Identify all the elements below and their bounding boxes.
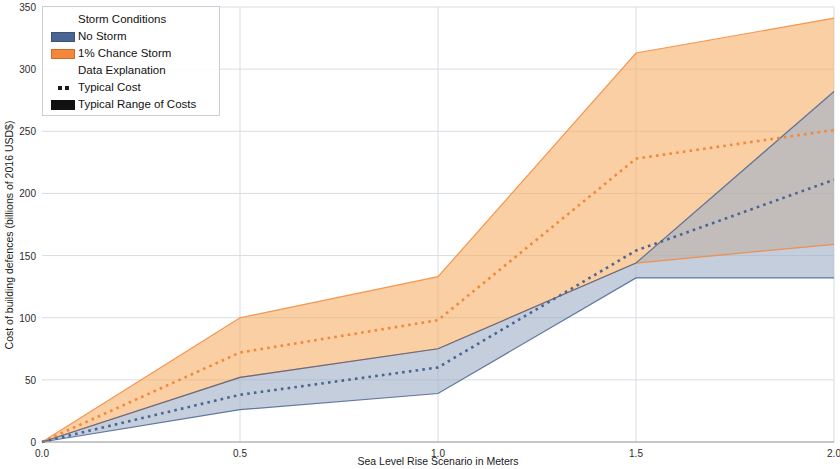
- y-tick-label: 100: [19, 313, 36, 324]
- y-tick-label: 150: [19, 251, 36, 262]
- y-tick-label: 0: [30, 437, 36, 448]
- legend-item[interactable]: No Storm: [48, 28, 213, 45]
- y-tick-label: 250: [19, 126, 36, 137]
- x-tick-label: 0.5: [233, 448, 247, 459]
- legend-item-label: Typical Cost: [78, 82, 141, 94]
- y-tick-label: 350: [19, 2, 36, 13]
- legend-solid-bar-icon: [51, 100, 75, 110]
- legend-color-swatch-icon: [51, 32, 75, 42]
- legend-item-label: No Storm: [78, 31, 127, 43]
- chart-legend: Storm ConditionsNo Storm1% Chance StormD…: [42, 6, 220, 116]
- x-tick-label: 0.0: [35, 448, 49, 459]
- legend-swatch-patch: [48, 49, 78, 59]
- x-tick-label: 2.0: [827, 448, 840, 459]
- legend-group-1: Data Explanation: [48, 62, 213, 79]
- legend-item-label: Typical Range of Costs: [78, 99, 196, 111]
- x-axis-title: Sea Level Rise Scenario in Meters: [357, 455, 518, 467]
- x-tick-label: 1.5: [629, 448, 643, 459]
- y-axis-title: Cost of building defences (billions of 2…: [3, 121, 15, 350]
- legend-group-heading: Data Explanation: [48, 65, 166, 77]
- legend-swatch-solid: [48, 100, 78, 110]
- legend-swatch-patch: [48, 32, 78, 42]
- legend-color-swatch-icon: [51, 49, 75, 59]
- y-tick-labels: 050100150200250300350: [19, 2, 36, 448]
- y-tick-label: 50: [25, 375, 37, 386]
- legend-swatch-dotted: [48, 83, 78, 93]
- sea-level-cost-chart: 0.00.51.01.52.0 050100150200250300350 Se…: [0, 0, 840, 469]
- legend-group-0: Storm Conditions: [48, 11, 213, 28]
- y-tick-label: 200: [19, 188, 36, 199]
- legend-item-label: 1% Chance Storm: [78, 48, 171, 60]
- legend-dotted-line-icon: [51, 83, 75, 93]
- legend-item[interactable]: Typical Cost: [48, 79, 213, 96]
- legend-group-heading: Storm Conditions: [48, 14, 166, 26]
- legend-item[interactable]: Typical Range of Costs: [48, 96, 213, 113]
- legend-item[interactable]: 1% Chance Storm: [48, 45, 213, 62]
- y-tick-label: 300: [19, 64, 36, 75]
